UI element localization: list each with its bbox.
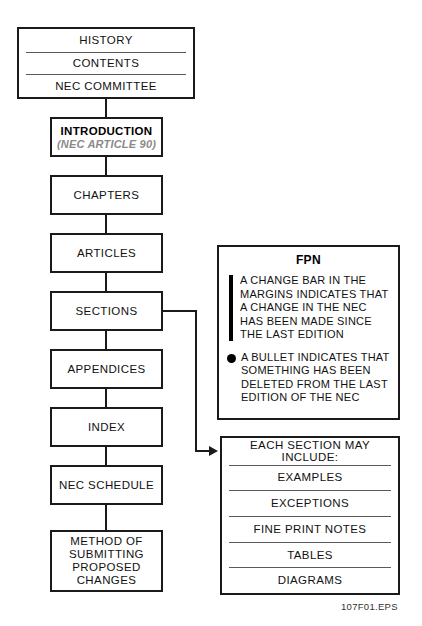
front-matter-box: HISTORY CONTENTS NEC COMMITTEE: [17, 27, 195, 99]
branch-connector-horizontal-top: [163, 310, 197, 312]
flow-box-nec-schedule: NEC SCHEDULE: [50, 465, 163, 505]
section-includes-row-exceptions: EXCEPTIONS: [222, 490, 398, 516]
section-includes-box: EACH SECTION MAY INCLUDE: EXAMPLES EXCEP…: [220, 436, 400, 595]
connector-appendices-index: [105, 389, 107, 407]
section-includes-label-fine-print-notes: FINE PRINT NOTES: [254, 523, 367, 535]
connector-chapters-articles: [105, 215, 107, 233]
flow-label-sections: SECTIONS: [76, 305, 138, 318]
fpn-text-bullet: A BULLET INDICATES THAT SOMETHING HAS BE…: [241, 351, 390, 405]
branch-connector-arrowhead-icon: [209, 446, 218, 456]
fpn-box: FPN A CHANGE BAR IN THE MARGINS INDICATE…: [217, 245, 400, 420]
front-matter-row-history: HISTORY: [19, 29, 193, 52]
bullet-icon: [227, 354, 236, 363]
fpn-title: FPN: [227, 253, 390, 267]
front-matter-row-nec-committee: NEC COMMITTEE: [19, 74, 193, 97]
section-includes-label-tables: TABLES: [287, 549, 333, 561]
connector-sections-appendices: [105, 331, 107, 349]
change-bar-icon: [229, 275, 233, 341]
introduction-box: INTRODUCTION (NEC ARTICLE 90): [50, 117, 163, 157]
flow-label-chapters: CHAPTERS: [74, 189, 140, 202]
flow-label-index: INDEX: [88, 421, 125, 434]
front-matter-label-nec-committee: NEC COMMITTEE: [55, 80, 157, 92]
flow-box-articles: ARTICLES: [50, 233, 163, 273]
section-includes-row-examples: EXAMPLES: [222, 465, 398, 491]
flow-label-appendices: APPENDICES: [67, 363, 145, 376]
branch-connector-horizontal-bottom: [195, 450, 209, 452]
section-includes-row-diagrams: DIAGRAMS: [222, 567, 398, 593]
figure-canvas: HISTORY CONTENTS NEC COMMITTEE INTRODUCT…: [0, 0, 422, 626]
flow-box-sections: SECTIONS: [50, 291, 163, 331]
section-includes-label-examples: EXAMPLES: [277, 471, 342, 483]
fpn-item-change-bar: A CHANGE BAR IN THE MARGINS INDICATES TH…: [227, 274, 390, 342]
connector-introduction-chapters: [105, 157, 107, 175]
section-includes-row-fine-print-notes: FINE PRINT NOTES: [222, 516, 398, 542]
flow-label-method: METHOD OF SUBMITTING PROPOSED CHANGES: [69, 535, 144, 587]
front-matter-label-history: HISTORY: [79, 34, 133, 46]
fpn-text-change-bar: A CHANGE BAR IN THE MARGINS INDICATES TH…: [240, 274, 389, 342]
section-includes-label-exceptions: EXCEPTIONS: [271, 497, 349, 509]
section-includes-row-tables: TABLES: [222, 542, 398, 568]
section-includes-label-diagrams: DIAGRAMS: [278, 574, 343, 586]
flow-box-index: INDEX: [50, 407, 163, 447]
fpn-item-bullet: A BULLET INDICATES THAT SOMETHING HAS BE…: [227, 351, 390, 405]
flow-label-nec-schedule: NEC SCHEDULE: [59, 479, 154, 492]
front-matter-label-contents: CONTENTS: [73, 57, 139, 69]
branch-connector-vertical: [195, 310, 197, 452]
introduction-subtitle: (NEC ARTICLE 90): [57, 138, 156, 150]
section-includes-header: EACH SECTION MAY INCLUDE:: [222, 439, 398, 463]
front-matter-row-contents: CONTENTS: [19, 52, 193, 75]
connector-nec-schedule-method: [105, 505, 107, 530]
connector-frontmatter-introduction: [105, 99, 107, 117]
flow-box-appendices: APPENDICES: [50, 349, 163, 389]
section-includes-header-row: EACH SECTION MAY INCLUDE:: [222, 438, 398, 465]
flow-box-chapters: CHAPTERS: [50, 175, 163, 215]
introduction-title: INTRODUCTION: [61, 125, 153, 137]
flow-label-articles: ARTICLES: [77, 247, 136, 260]
eps-file-label: 107F01.EPS: [341, 601, 398, 612]
connector-index-nec-schedule: [105, 447, 107, 465]
flow-box-method-of-submitting-proposed-changes: METHOD OF SUBMITTING PROPOSED CHANGES: [50, 530, 163, 592]
connector-articles-sections: [105, 273, 107, 291]
